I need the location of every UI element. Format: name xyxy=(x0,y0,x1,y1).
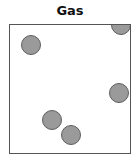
gas-particle xyxy=(21,35,41,55)
diagram-title: Gas xyxy=(0,3,140,19)
gas-particle xyxy=(111,24,131,35)
gas-particle xyxy=(61,125,81,145)
gas-container xyxy=(9,24,131,154)
gas-particle xyxy=(42,110,62,130)
gas-particle xyxy=(109,83,129,103)
